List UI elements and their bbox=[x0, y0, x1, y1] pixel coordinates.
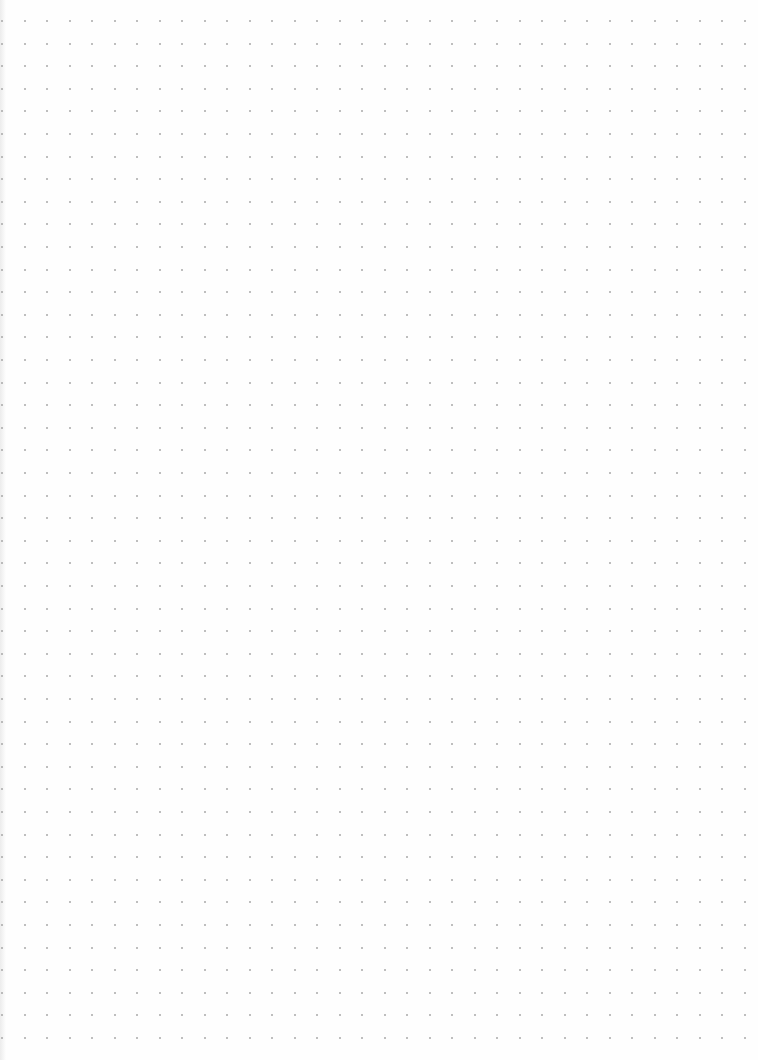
grid-dot bbox=[541, 382, 543, 384]
grid-dot bbox=[271, 856, 273, 858]
grid-dot bbox=[294, 947, 296, 949]
grid-dot bbox=[676, 721, 678, 723]
grid-dot bbox=[721, 246, 723, 248]
grid-dot bbox=[676, 314, 678, 316]
grid-dot bbox=[519, 246, 521, 248]
grid-dot bbox=[676, 156, 678, 158]
grid-dot bbox=[316, 269, 318, 271]
grid-dot bbox=[384, 472, 386, 474]
grid-dot bbox=[474, 540, 476, 542]
grid-dot bbox=[406, 495, 408, 497]
grid-dot bbox=[361, 427, 363, 429]
grid-dot bbox=[609, 517, 611, 519]
grid-dot bbox=[226, 653, 228, 655]
grid-dot bbox=[24, 201, 26, 203]
grid-dot bbox=[564, 675, 566, 677]
grid-dot bbox=[721, 201, 723, 203]
grid-dot bbox=[69, 314, 71, 316]
grid-dot bbox=[744, 495, 746, 497]
grid-dot bbox=[226, 65, 228, 67]
grid-dot bbox=[496, 449, 498, 451]
grid-dot bbox=[541, 1037, 543, 1039]
grid-dot bbox=[406, 1014, 408, 1016]
grid-dot bbox=[654, 246, 656, 248]
grid-dot bbox=[361, 517, 363, 519]
grid-dot bbox=[136, 472, 138, 474]
grid-dot bbox=[609, 608, 611, 610]
grid-dot bbox=[294, 65, 296, 67]
grid-dot bbox=[474, 246, 476, 248]
grid-dot bbox=[654, 291, 656, 293]
grid-dot bbox=[159, 65, 161, 67]
grid-dot bbox=[384, 43, 386, 45]
grid-dot bbox=[474, 382, 476, 384]
grid-dot bbox=[181, 404, 183, 406]
grid-dot bbox=[316, 901, 318, 903]
grid-dot bbox=[406, 969, 408, 971]
grid-dot bbox=[474, 562, 476, 564]
grid-dot bbox=[24, 269, 26, 271]
grid-dot bbox=[496, 43, 498, 45]
grid-dot bbox=[474, 834, 476, 836]
grid-dot bbox=[159, 630, 161, 632]
grid-dot bbox=[451, 65, 453, 67]
grid-dot bbox=[406, 246, 408, 248]
grid-dot bbox=[721, 269, 723, 271]
grid-dot bbox=[519, 901, 521, 903]
grid-dot bbox=[384, 721, 386, 723]
grid-dot bbox=[181, 427, 183, 429]
grid-dot bbox=[451, 969, 453, 971]
grid-dot bbox=[159, 178, 161, 180]
grid-dot bbox=[91, 201, 93, 203]
grid-dot bbox=[24, 427, 26, 429]
grid-dot bbox=[24, 314, 26, 316]
grid-dot bbox=[339, 269, 341, 271]
grid-dot bbox=[429, 608, 431, 610]
grid-dot bbox=[136, 110, 138, 112]
grid-dot bbox=[46, 404, 48, 406]
grid-dot bbox=[541, 562, 543, 564]
grid-dot bbox=[91, 110, 93, 112]
grid-dot bbox=[159, 223, 161, 225]
grid-dot bbox=[541, 88, 543, 90]
grid-dot bbox=[159, 517, 161, 519]
grid-dot bbox=[114, 675, 116, 677]
grid-dot bbox=[474, 675, 476, 677]
grid-dot bbox=[316, 1037, 318, 1039]
grid-dot bbox=[226, 110, 228, 112]
grid-dot bbox=[316, 992, 318, 994]
grid-dot bbox=[226, 969, 228, 971]
grid-dot bbox=[654, 969, 656, 971]
grid-dot bbox=[609, 246, 611, 248]
grid-dot bbox=[339, 608, 341, 610]
grid-dot bbox=[474, 585, 476, 587]
grid-dot bbox=[204, 495, 206, 497]
grid-dot bbox=[226, 992, 228, 994]
grid-dot bbox=[406, 20, 408, 22]
grid-dot bbox=[429, 766, 431, 768]
grid-dot bbox=[744, 1037, 746, 1039]
grid-dot bbox=[384, 404, 386, 406]
grid-dot bbox=[676, 110, 678, 112]
grid-dot bbox=[654, 156, 656, 158]
grid-dot bbox=[744, 653, 746, 655]
grid-dot bbox=[294, 223, 296, 225]
grid-dot bbox=[654, 856, 656, 858]
grid-dot bbox=[1, 178, 3, 180]
grid-dot bbox=[451, 495, 453, 497]
grid-dot bbox=[654, 992, 656, 994]
grid-dot bbox=[114, 540, 116, 542]
grid-dot bbox=[271, 947, 273, 949]
grid-dot bbox=[609, 585, 611, 587]
grid-dot bbox=[181, 1037, 183, 1039]
grid-dot bbox=[721, 43, 723, 45]
grid-dot bbox=[721, 834, 723, 836]
grid-dot bbox=[159, 449, 161, 451]
grid-dot bbox=[631, 924, 633, 926]
grid-dot bbox=[114, 856, 116, 858]
grid-dot bbox=[541, 856, 543, 858]
grid-dot bbox=[114, 562, 116, 564]
grid-dot bbox=[181, 924, 183, 926]
grid-dot bbox=[474, 269, 476, 271]
grid-dot bbox=[676, 404, 678, 406]
